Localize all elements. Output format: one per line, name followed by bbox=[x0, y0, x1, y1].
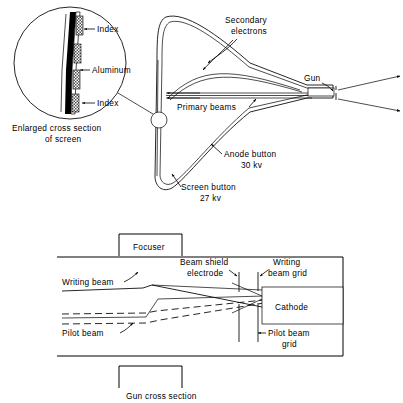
primary-beams-leader bbox=[249, 99, 256, 107]
anode-button-label-1: Anode button bbox=[224, 149, 276, 159]
index-stripe-bottom bbox=[72, 94, 79, 112]
index-stripe-lower-mid bbox=[73, 70, 80, 89]
callout-caption-line1: Enlarged cross section bbox=[12, 123, 102, 133]
screen-glass-line bbox=[61, 14, 66, 112]
primary-beams-label: Primary beams bbox=[177, 102, 236, 112]
writing-grid-leader bbox=[260, 270, 268, 276]
figure-root: Index Aluminum Index Enlarged cross sect… bbox=[0, 0, 403, 403]
emitted-beam-upper bbox=[338, 76, 400, 90]
anode-button-label-2: 30 kv bbox=[241, 160, 263, 170]
callout-caption-line2: of screen bbox=[45, 134, 82, 144]
anode-button-leader bbox=[211, 144, 222, 154]
pilot-beam-leader bbox=[120, 323, 133, 333]
screen-button-label-1: Screen button bbox=[181, 182, 236, 192]
gun-label: Gun bbox=[304, 73, 321, 83]
magnified-spot-circle bbox=[151, 112, 167, 128]
focuser-label: Focuser bbox=[133, 242, 165, 252]
gun-cross-section-caption: Gun cross section bbox=[126, 391, 197, 401]
index-top-label: Index bbox=[97, 24, 119, 34]
beam-shield-label-2: electrode bbox=[187, 268, 224, 278]
writing-beam-path-edge bbox=[152, 285, 262, 290]
secondary-electron-path-2 bbox=[170, 77, 302, 100]
screen-button-leader bbox=[172, 174, 181, 187]
secondary-electrons-label-2: electrons bbox=[231, 26, 267, 36]
crt-figure-svg: Index Aluminum Index Enlarged cross sect… bbox=[0, 0, 403, 403]
writing-beam-label: Writing beam bbox=[62, 277, 114, 287]
pilot-beam-path-lower bbox=[62, 303, 264, 324]
enlarged-cross-section-callout: Index Aluminum Index Enlarged cross sect… bbox=[12, 7, 158, 144]
cathode-label: Cathode bbox=[275, 302, 308, 312]
writing-grid-label-1: Writing bbox=[273, 257, 301, 267]
secondary-electrons-label-1: Secondary bbox=[225, 15, 268, 25]
aluminum-label: Aluminum bbox=[92, 65, 131, 75]
crt-envelope: Secondary electrons Primary beams Gun An… bbox=[151, 15, 400, 203]
callout-leader-line bbox=[118, 93, 158, 117]
pilot-beam-centerline bbox=[62, 296, 264, 318]
writing-beam-leader bbox=[124, 272, 138, 282]
emitted-beam-lower bbox=[338, 99, 400, 111]
secondary-electrons-leader-2 bbox=[203, 40, 233, 70]
index-stripe-upper-mid bbox=[74, 44, 81, 63]
screen-button-label-2: 27 kv bbox=[200, 193, 222, 203]
beam-shield-leader bbox=[229, 270, 237, 276]
pilot-grid-label-2: grid bbox=[282, 339, 297, 349]
gun-cross-section-bracket bbox=[119, 366, 182, 388]
writing-grid-label-2: beam grid bbox=[268, 268, 307, 278]
gun-cross-section-diagram: Focuser bbox=[57, 234, 343, 401]
pilot-grid-label-1: Pilot beam bbox=[268, 328, 310, 338]
gun-body bbox=[308, 88, 334, 96]
pilot-beam-label: Pilot beam bbox=[62, 328, 104, 338]
index-bottom-label: Index bbox=[97, 98, 119, 108]
beam-shield-label-1: Beam shield bbox=[180, 257, 229, 267]
index-stripe-top bbox=[76, 16, 83, 35]
